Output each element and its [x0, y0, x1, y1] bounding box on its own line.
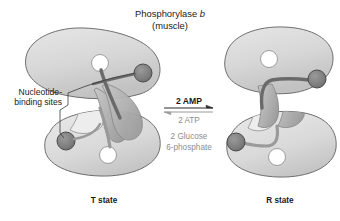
r-state-upper-active-site [261, 51, 278, 68]
r-state-lower-nucleotide-site [227, 133, 245, 151]
phosphorylase-conformational-diagram: Phosphorylase b (muscle) [0, 0, 340, 221]
figure-title-line1: Phosphorylase b [135, 8, 205, 19]
t-state-lower-active-site [100, 147, 117, 164]
reverse-reaction-label-phosphate: 6-phosphate [166, 143, 212, 152]
nucleotide-binding-label-line1: Nucleotide- [19, 87, 63, 97]
reverse-reaction-label-atp: 2 ATP [178, 116, 200, 125]
t-state-upper-nucleotide-site [134, 64, 152, 82]
r-state-upper-nucleotide-site [308, 70, 326, 88]
reverse-reaction-label-glucose: 2 Glucose [171, 132, 208, 141]
nucleotide-binding-label-line2: binding sites [14, 97, 62, 107]
figure-title-line2: (muscle) [152, 20, 188, 31]
title-prefix: Phosphorylase [135, 8, 200, 19]
r-state-label: R state [266, 196, 294, 205]
forward-reaction-label: 2 AMP [176, 96, 202, 106]
t-state-lower-nucleotide-site [57, 132, 75, 150]
title-italic-b: b [200, 8, 205, 19]
t-state-label: T state [91, 196, 118, 205]
r-state-lower-active-site [269, 149, 286, 166]
